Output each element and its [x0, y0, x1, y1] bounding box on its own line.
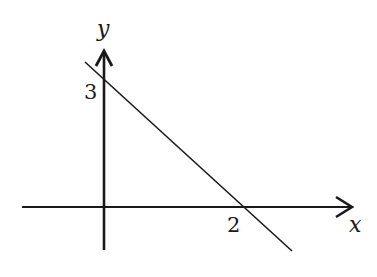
y-intercept-label: 3	[84, 80, 97, 104]
x-intercept-label: 2	[227, 213, 240, 237]
x-axis	[22, 197, 352, 217]
graph-line	[85, 62, 292, 251]
x-axis-label: x	[349, 212, 362, 237]
coordinate-graph: y x 3 2	[0, 0, 377, 277]
y-axis	[96, 51, 112, 250]
y-axis-label: y	[96, 16, 110, 41]
